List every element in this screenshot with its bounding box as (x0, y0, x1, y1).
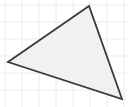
geometry-figure (0, 0, 128, 107)
figure-canvas (0, 0, 128, 107)
